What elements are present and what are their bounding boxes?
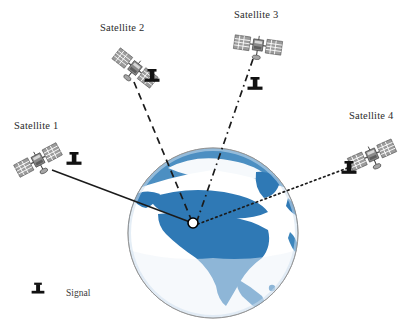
gps-receiver-point[interactable] (188, 218, 198, 228)
satellite-2-label: Satellite 2 (100, 22, 144, 33)
diagram-vector-layer (0, 0, 412, 324)
satellite-3-icon[interactable] (232, 33, 283, 63)
satellite-3-label: Satellite 3 (234, 9, 278, 20)
satellite-1-icon[interactable] (13, 141, 66, 184)
satellite-3-signal-icon (248, 77, 263, 90)
signal-legend-icon (32, 283, 45, 294)
gps-diagram-canvas: Satellite 1 Satellite 2 Satellite 3 Sate… (0, 0, 412, 324)
signal-legend-icon-glyph (32, 283, 45, 294)
satellite-1-label: Satellite 1 (14, 120, 58, 131)
satellite-1-signal-icon (67, 152, 82, 165)
satellite-4-label: Satellite 4 (349, 110, 393, 121)
signal-legend-label: Signal (66, 288, 90, 298)
